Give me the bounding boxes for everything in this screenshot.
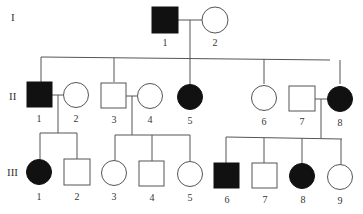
individual-III-2-unaffected-male <box>64 159 90 185</box>
individual-III-9-unaffected-female <box>328 165 353 190</box>
generation-label-II: II <box>9 90 17 102</box>
individual-I-2-unaffected-female <box>202 7 228 33</box>
individual-III-1-affected-female <box>27 160 52 185</box>
individual-III-3-unaffected-female <box>102 161 127 186</box>
id-II-8: 8 <box>338 117 343 128</box>
individual-III-5-unaffected-female <box>178 162 203 187</box>
id-III-4: 4 <box>150 192 155 203</box>
sibship-line-III-c <box>226 137 342 139</box>
id-I-2: 2 <box>213 37 218 48</box>
sibship-line-II <box>41 57 330 60</box>
id-III-7: 7 <box>263 194 268 205</box>
individual-II-1-affected-male <box>27 82 52 107</box>
id-II-4: 4 <box>148 114 153 125</box>
pedigree-diagram: I II III 1 2 1 2 3 4 5 6 7 8 <box>0 0 363 214</box>
individual-II-3-unaffected-male <box>101 83 126 108</box>
id-II-5: 5 <box>188 115 193 126</box>
individual-II-2-unaffected-female <box>64 83 89 108</box>
generation-label-I: I <box>11 11 15 23</box>
id-II-6: 6 <box>262 116 267 127</box>
id-III-5: 5 <box>188 192 193 203</box>
individual-III-8-affected-female <box>290 164 315 189</box>
individual-III-7-unaffected-male <box>252 163 277 188</box>
id-III-9: 9 <box>338 195 343 206</box>
individual-II-5-affected-female <box>178 85 203 110</box>
generation-label-III: III <box>7 166 18 178</box>
pedigree-canvas: I II III 1 2 1 2 3 4 5 6 7 8 <box>0 0 363 214</box>
individual-II-7-unaffected-male <box>289 86 315 111</box>
id-III-1: 1 <box>37 191 42 202</box>
individual-II-6-unaffected-female <box>252 86 277 111</box>
id-II-7: 7 <box>300 116 305 127</box>
id-III-3: 3 <box>112 191 117 202</box>
id-III-6: 6 <box>225 194 230 205</box>
id-II-3: 3 <box>112 114 117 125</box>
id-II-2: 2 <box>74 113 79 124</box>
individual-III-6-affected-male <box>214 163 239 188</box>
individual-I-1-affected-male <box>152 7 178 33</box>
individual-II-8-affected-female <box>328 87 353 112</box>
individual-III-4-unaffected-male <box>139 161 164 186</box>
id-III-2: 2 <box>75 191 80 202</box>
id-I-1: 1 <box>163 37 168 48</box>
id-III-8: 8 <box>301 194 306 205</box>
individual-II-4-unaffected-female <box>138 84 163 109</box>
id-II-1: 1 <box>37 113 42 124</box>
